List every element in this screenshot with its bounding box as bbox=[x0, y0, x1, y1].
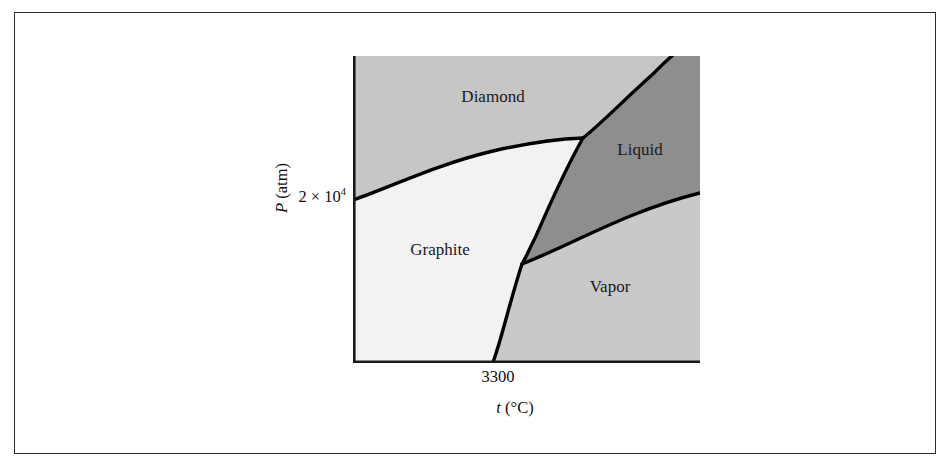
region-label-vapor: Vapor bbox=[590, 277, 631, 296]
figure-root: Diamond Graphite Liquid Vapor P (atm) 2 … bbox=[0, 0, 949, 476]
phase-diagram-svg: Diamond Graphite Liquid Vapor bbox=[353, 56, 700, 363]
x-axis-tick-label: 3300 bbox=[453, 367, 543, 387]
x-axis-unit: (°C) bbox=[505, 398, 534, 417]
region-label-liquid: Liquid bbox=[617, 140, 663, 159]
x-axis-label: t (°C) bbox=[450, 398, 580, 418]
y-tick-mantissa: 2 × 10 bbox=[298, 187, 340, 206]
y-tick-exponent: 4 bbox=[341, 186, 346, 197]
region-label-graphite: Graphite bbox=[410, 240, 469, 259]
y-axis-tick-label: 2 × 104 bbox=[270, 186, 346, 207]
phase-diagram-plot: Diamond Graphite Liquid Vapor bbox=[353, 56, 700, 363]
region-label-diamond: Diamond bbox=[461, 87, 525, 106]
